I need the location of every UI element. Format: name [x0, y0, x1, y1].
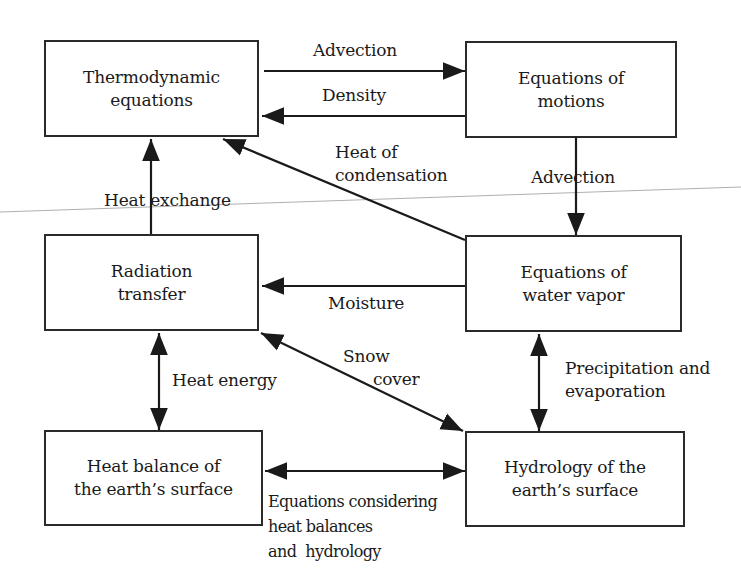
node-label-line: the earth’s surface	[74, 478, 233, 501]
edge-label-line: Heat of	[335, 141, 448, 164]
node-label-line: transfer	[118, 283, 186, 306]
node-label-line: Heat balance of	[87, 455, 220, 478]
node-label-line: motions	[537, 90, 604, 113]
node-heat-balance-earth-surface: Heat balance of the earth’s surface	[44, 430, 263, 526]
node-thermodynamic-equations: Thermodynamic equations	[44, 40, 259, 137]
node-label-line: earth’s surface	[512, 479, 638, 502]
edge-label-line: and hydrology	[268, 539, 437, 564]
node-label-line: Radiation	[111, 260, 192, 283]
edge-label-density: Density	[322, 84, 386, 107]
edge-label-line: evaporation	[565, 380, 710, 403]
node-label-line: water vapor	[523, 284, 625, 307]
edge-label-line: Precipitation and	[565, 357, 710, 380]
edge-label-heat-of-condensation: Heat of condensation	[335, 141, 448, 187]
node-label-line: Equations of	[520, 261, 626, 284]
edge-label-equations-heat-hydrology: Equations considering heat balances and …	[268, 489, 437, 564]
edge-label-advection-top: Advection	[313, 39, 397, 62]
edge-label-precipitation-evaporation: Precipitation and evaporation	[565, 357, 710, 403]
edge-label-line: condensation	[335, 164, 448, 187]
edge-label-heat-energy: Heat energy	[172, 369, 277, 392]
node-equations-of-water-vapor: Equations of water vapor	[465, 235, 682, 332]
node-equations-of-motions: Equations of motions	[465, 41, 677, 138]
edge-label-heat-exchange: Heat exchange	[104, 189, 231, 212]
edge-label-line: Snow	[343, 345, 420, 368]
edge-label-advection-right: Advection	[531, 166, 615, 189]
node-label-line: Hydrology of the	[504, 456, 646, 479]
node-radiation-transfer: Radiation transfer	[44, 234, 259, 331]
node-hydrology-earth-surface: Hydrology of the earth’s surface	[465, 431, 685, 527]
node-label-line: equations	[110, 89, 192, 112]
edge-label-line: Equations considering	[268, 489, 437, 514]
node-label-line: Equations of	[518, 67, 624, 90]
edge-label-line: heat balances	[268, 514, 437, 539]
edge-label-moisture: Moisture	[328, 292, 404, 315]
node-label-line: Thermodynamic	[83, 66, 220, 89]
edge-label-snow-cover: Snow cover	[343, 345, 420, 391]
edge-label-line: cover	[343, 368, 420, 391]
